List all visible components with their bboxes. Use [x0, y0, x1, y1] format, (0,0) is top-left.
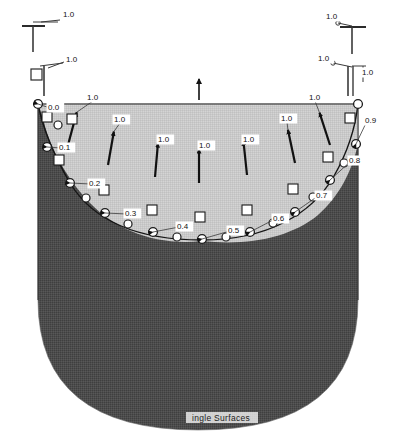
- interface-node: [82, 194, 90, 202]
- interface-node: [124, 220, 132, 228]
- square-marker: [345, 113, 355, 123]
- interface-node-label: 0.8: [349, 156, 361, 165]
- velocity-vector-label: 1.0: [309, 93, 321, 102]
- bc-symbol-top-right-upper: [336, 21, 366, 54]
- interface-node-label: 0.0: [48, 103, 60, 112]
- velocity-vector-label: 1.0: [243, 135, 255, 144]
- interface-node: [54, 121, 62, 129]
- square-marker: [67, 114, 77, 124]
- interface-node-label: 0.9: [365, 116, 377, 125]
- bc-symbol-top-left-lower: [31, 62, 64, 96]
- interface-node-label: 0.4: [177, 222, 189, 231]
- interface-node: [354, 100, 363, 109]
- bc-symbol-label: 1.0: [66, 55, 78, 64]
- interface-node-label: 0.7: [316, 191, 328, 200]
- bc-label-group: 1.01.01.01.01.0: [62, 10, 379, 78]
- interface-node-label: 0.3: [125, 209, 137, 218]
- single-surfaces-diagram: 1.01.01.01.01.0 1.01.01.01.01.01.01.0 0.…: [0, 0, 398, 440]
- interface-node-label: 0.2: [89, 179, 101, 188]
- square-marker: [242, 205, 252, 215]
- velocity-vector-label: 1.0: [114, 115, 126, 124]
- interface-node: [340, 159, 348, 167]
- velocity-vector-label: 1.0: [281, 114, 293, 123]
- bc-symbol-label: 1.0: [362, 68, 374, 77]
- figure-canvas: 1.01.01.01.01.0 1.01.01.01.01.01.01.0 0.…: [0, 0, 398, 440]
- figure-caption-text: ingle Surfaces: [192, 413, 250, 423]
- square-marker: [195, 212, 205, 222]
- bc-symbol-top-left-upper: [22, 20, 60, 52]
- square-marker: [147, 205, 157, 215]
- interface-node-label: 0.5: [228, 226, 240, 235]
- velocity-vector-label: 1.0: [87, 93, 99, 102]
- bc-symbol-label: 1.0: [318, 54, 330, 63]
- bc-symbol-label: 1.0: [63, 10, 75, 19]
- interface-node-label: 0.6: [273, 214, 285, 223]
- interface-node: [173, 233, 181, 241]
- square-marker: [288, 184, 298, 194]
- square-marker: [42, 112, 52, 122]
- velocity-vector-label: 1.0: [199, 141, 211, 150]
- square-marker: [54, 155, 64, 165]
- bc-symbol-top-right-lower: [331, 61, 366, 96]
- interface-node-label: 0.1: [59, 143, 71, 152]
- square-marker: [323, 152, 333, 162]
- bc-symbol-label: 1.0: [326, 12, 338, 21]
- velocity-vector-label: 1.0: [158, 135, 170, 144]
- figure-caption: ingle Surfaces: [186, 412, 258, 423]
